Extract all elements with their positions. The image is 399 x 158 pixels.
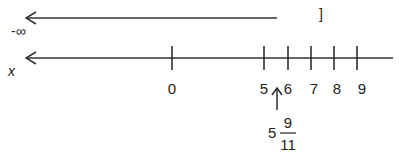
- marker-denominator: 11: [280, 137, 296, 152]
- marker-whole: 5: [268, 125, 276, 140]
- up-arrow-icon: [272, 88, 282, 110]
- tick-label-7: 7: [310, 81, 318, 96]
- tick-label-9: 9: [358, 81, 366, 96]
- solution-ray: [26, 12, 277, 24]
- tick-label-5: 5: [260, 81, 268, 96]
- marker-numerator: 9: [284, 115, 292, 130]
- tick-label-6: 6: [284, 81, 292, 96]
- bracket-endpoint: ]: [319, 7, 323, 22]
- negative-infinity-label: -∞: [11, 24, 26, 39]
- tick-label-8: 8: [333, 81, 341, 96]
- variable-label: x: [8, 64, 15, 79]
- tick-label-0: 0: [168, 81, 176, 96]
- number-line-graphic: [0, 0, 399, 158]
- axis-line: [26, 52, 393, 64]
